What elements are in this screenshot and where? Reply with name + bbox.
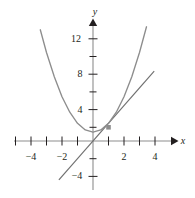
y-tick-label-neg4: −4: [72, 171, 83, 181]
x-tick-label-4: 4: [153, 152, 158, 162]
y-tick-label-4: 4: [78, 105, 83, 115]
x-axis-label: x: [181, 136, 185, 146]
tangent-point-marker: [106, 125, 111, 130]
graph-figure: −4 −2 2 4 12 8 4 −4 x y: [0, 0, 195, 198]
y-axis-label: y: [93, 7, 97, 17]
x-tick-label-2: 2: [122, 152, 127, 162]
x-tick-label-neg2: −2: [57, 152, 68, 162]
plot-canvas: [0, 0, 195, 198]
y-axis-arrowhead: [89, 19, 97, 27]
y-tick-label-12: 12: [71, 34, 81, 44]
x-tick-label-neg4: −4: [26, 152, 37, 162]
x-axis-arrowhead: [171, 137, 179, 145]
y-tick-label-8: 8: [78, 69, 83, 79]
